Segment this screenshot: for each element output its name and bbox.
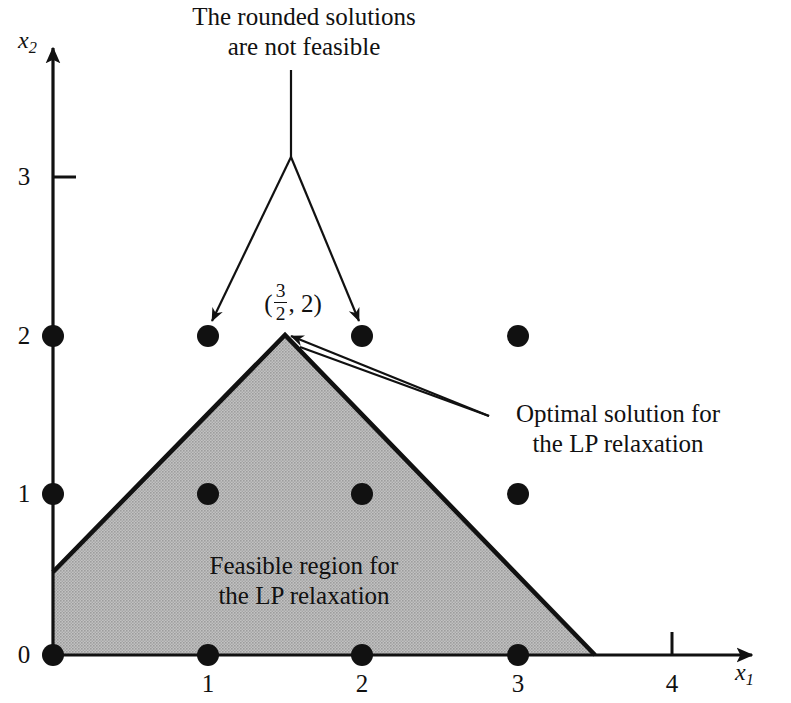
lattice-point: [42, 483, 64, 505]
lattice-point: [197, 483, 219, 505]
lattice-point: [351, 483, 373, 505]
fraction-three-halves: 32: [274, 281, 288, 324]
fraction-numerator: 3: [274, 281, 288, 301]
x-axis-label-sub: 1: [746, 670, 754, 689]
x-tick-label-2: 2: [347, 669, 377, 699]
y-axis-label: x2: [18, 26, 37, 54]
label-feasible-region: Feasible region for the LP relaxation: [170, 551, 438, 610]
annotation-optimal-line-2: the LP relaxation: [489, 429, 747, 459]
x-axis-label: x1: [735, 658, 754, 686]
annotation-optimal-line-1: Optimal solution for: [489, 399, 747, 429]
lattice-point: [507, 325, 529, 347]
label-feasible-line-1: Feasible region for: [170, 551, 438, 581]
x-axis-label-text: x: [735, 659, 746, 685]
y-axis-label-text: x: [18, 27, 29, 53]
paren-close: ): [313, 290, 321, 317]
y-axis-label-sub: 2: [29, 38, 37, 57]
fraction-denominator: 2: [274, 304, 288, 324]
lattice-point: [42, 644, 64, 666]
lattice-point: [351, 644, 373, 666]
annotation-rounded-line-1: The rounded solutions: [180, 2, 428, 32]
annotation-rounded-line-2: are not feasible: [180, 32, 428, 62]
label-feasible-line-2: the LP relaxation: [170, 581, 438, 611]
y-tick-label-1: 1: [9, 479, 39, 509]
lattice-point: [197, 644, 219, 666]
coordinate-comma: ,: [288, 290, 301, 317]
coordinate-second-value: 2: [301, 290, 314, 317]
lattice-point: [197, 325, 219, 347]
x-tick-label-3: 3: [503, 669, 533, 699]
y-tick-label-0: 0: [9, 640, 39, 670]
optimal-point-coordinate-label: (32, 2): [243, 281, 343, 324]
y-tick-label-3: 3: [9, 162, 39, 192]
lattice-point: [42, 325, 64, 347]
x-tick-label-1: 1: [193, 669, 223, 699]
annotation-rounded-solutions: The rounded solutions are not feasible: [180, 2, 428, 61]
lattice-point: [507, 644, 529, 666]
annotation-optimal-solution: Optimal solution for the LP relaxation: [489, 399, 747, 458]
lp-relaxation-figure: x2 x1 0 1 2 3 1 2 3 4 The rounded soluti…: [0, 0, 791, 703]
y-tick-label-2: 2: [9, 321, 39, 351]
lattice-point: [507, 483, 529, 505]
x-tick-label-4: 4: [657, 669, 687, 699]
paren-open: (: [264, 290, 272, 317]
lattice-point: [351, 325, 373, 347]
